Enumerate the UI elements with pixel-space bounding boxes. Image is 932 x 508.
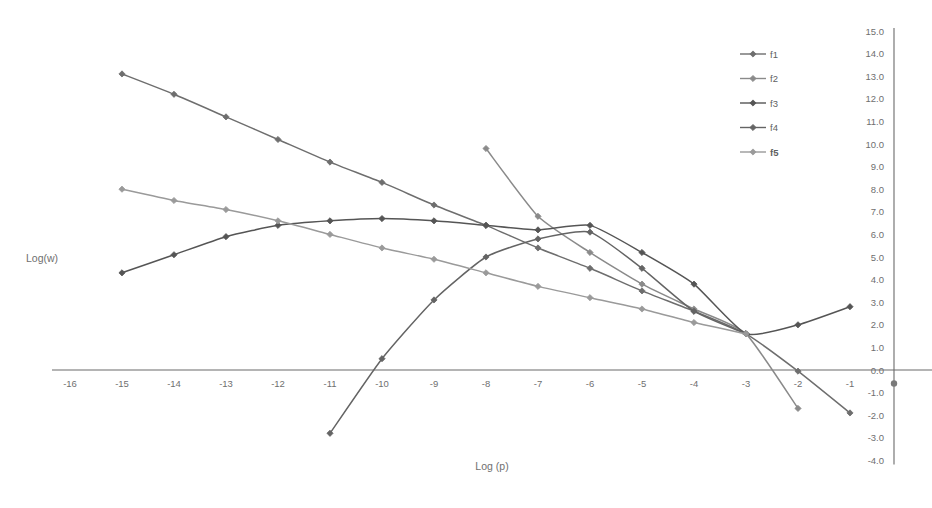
x-axis-title: Log (p) (475, 460, 508, 472)
x-tick-label: -1 (846, 378, 854, 389)
legend-item-label: f5 (770, 147, 779, 158)
chart-container: -16-15-14-13-12-11-10-9-8-7-6-5-4-3-2-1 … (0, 0, 932, 508)
x-tick-label: -5 (638, 378, 646, 389)
y-tick-label: -3.0 (868, 432, 884, 443)
x-tick-label: -6 (586, 378, 594, 389)
legend-item-label: f4 (770, 122, 778, 133)
axis-origin-marker (891, 380, 897, 386)
y-tick-label: 5.0 (871, 252, 884, 263)
y-axis-title: Log(w) (26, 252, 58, 264)
x-tick-label: -2 (794, 378, 802, 389)
y-tick-label: -4.0 (868, 455, 884, 466)
x-tick-label: -16 (63, 378, 77, 389)
y-tick-label: 9.0 (871, 161, 884, 172)
y-tick-label: 7.0 (871, 206, 884, 217)
x-tick-label: -3 (742, 378, 750, 389)
y-tick-label: 12.0 (866, 93, 885, 104)
x-tick-label: -11 (323, 378, 336, 389)
x-tick-label: -9 (430, 378, 438, 389)
legend-item-label: f1 (770, 49, 778, 60)
line-chart: -16-15-14-13-12-11-10-9-8-7-6-5-4-3-2-1 … (0, 0, 932, 508)
x-tick-label: -8 (482, 378, 490, 389)
y-tick-label: 0.0 (871, 365, 884, 376)
y-tick-label: 2.0 (871, 319, 884, 330)
y-tick-label: 1.0 (871, 342, 884, 353)
y-tick-label: 13.0 (866, 71, 885, 82)
y-tick-label: -1.0 (868, 387, 884, 398)
y-tick-label: -2.0 (868, 410, 884, 421)
y-tick-label: 14.0 (866, 48, 885, 59)
y-tick-label: 10.0 (866, 139, 885, 150)
x-tick-label: -12 (271, 378, 285, 389)
y-tick-label: 3.0 (871, 297, 884, 308)
legend-item-label: f2 (770, 73, 778, 84)
y-tick-label: 6.0 (871, 229, 884, 240)
x-tick-label: -7 (534, 378, 542, 389)
x-tick-label: -4 (690, 378, 698, 389)
x-tick-label: -13 (219, 378, 233, 389)
x-tick-label: -10 (375, 378, 389, 389)
legend-item-label: f3 (770, 98, 778, 109)
x-tick-label: -15 (115, 378, 129, 389)
y-tick-label: 15.0 (866, 26, 885, 37)
chart-background (0, 0, 932, 508)
y-tick-label: 11.0 (866, 116, 884, 127)
y-tick-label: 4.0 (871, 274, 884, 285)
x-tick-label: -14 (167, 378, 181, 389)
y-tick-label: 8.0 (871, 184, 884, 195)
